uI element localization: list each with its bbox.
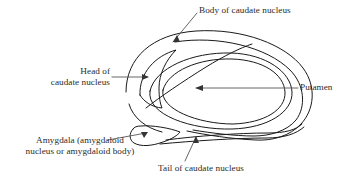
caudate-tail-upper: [166, 124, 302, 140]
label-amygdala-line-1: Amygdala (amygdaloid: [4, 135, 156, 146]
label-head-of-caudate-nucleus-line-1: Head of: [18, 66, 110, 77]
label-amygdala-line-2: nucleus or amygdaloid body): [4, 146, 156, 157]
label-putamen: Putamen: [300, 82, 333, 93]
label-body-of-caudate-nucleus-line-1: Body of caudate nucleus: [199, 5, 291, 16]
label-head-of-caudate-nucleus-line-2: caudate nucleus: [18, 77, 110, 88]
figure-canvas: Body of caudate nucleus Head of caudate …: [0, 0, 349, 184]
label-amygdala: Amygdala (amygdaloid nucleus or amygdalo…: [4, 135, 156, 157]
arrowhead-body-caudate: [173, 35, 180, 42]
label-body-of-caudate-nucleus: Body of caudate nucleus: [199, 5, 291, 16]
arrowhead-putamen: [195, 85, 203, 91]
putamen-outer-outline: [150, 53, 292, 129]
label-head-of-caudate-nucleus: Head of caudate nucleus: [18, 66, 110, 88]
arrowhead-head-caudate: [142, 74, 149, 80]
label-tail-of-caudate-nucleus-line-1: Tail of caudate nucleus: [158, 163, 244, 174]
label-tail-of-caudate-nucleus: Tail of caudate nucleus: [158, 163, 244, 174]
label-putamen-line-1: Putamen: [300, 82, 333, 93]
putamen-inner-outline: [163, 59, 285, 124]
